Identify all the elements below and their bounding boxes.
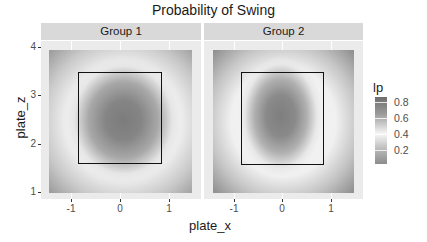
legend-label: 0.4 xyxy=(394,128,409,140)
panel-group-2 xyxy=(204,41,363,199)
x-axis-label: plate_x xyxy=(150,218,270,233)
y-tick-label: 4 xyxy=(22,41,36,52)
x-tick-label: 0 xyxy=(272,203,292,214)
y-tick-label: 1 xyxy=(22,186,36,197)
x-tick-label: 0 xyxy=(110,203,130,214)
x-tick-label: 1 xyxy=(159,203,179,214)
legend-tick xyxy=(375,118,387,119)
legend-tick xyxy=(375,150,387,151)
x-tick xyxy=(282,199,283,202)
legend-title: lp xyxy=(373,80,383,95)
y-tick xyxy=(38,144,41,145)
y-tick xyxy=(38,192,41,193)
x-tick-label: -1 xyxy=(224,203,244,214)
x-tick xyxy=(331,199,332,202)
strike-zone-box xyxy=(241,72,324,165)
facet-strip-group-2: Group 2 xyxy=(204,23,363,40)
y-tick xyxy=(38,47,41,48)
legend-tick xyxy=(375,134,387,135)
y-tick xyxy=(38,95,41,96)
panel-group-1 xyxy=(41,41,201,199)
legend-colorbar xyxy=(375,97,387,164)
y-axis-label: plate_z xyxy=(13,88,28,148)
x-tick xyxy=(120,199,121,202)
legend-label: 0.8 xyxy=(394,96,409,108)
x-tick-label: -1 xyxy=(61,203,81,214)
x-tick-label: 1 xyxy=(321,203,341,214)
legend-label: 0.2 xyxy=(394,144,409,156)
legend-tick xyxy=(375,102,387,103)
x-tick xyxy=(71,199,72,202)
legend-label: 0.6 xyxy=(394,112,409,124)
x-tick xyxy=(169,199,170,202)
chart-title: Probability of Swing xyxy=(0,2,427,18)
strike-zone-box xyxy=(78,72,162,164)
x-tick xyxy=(234,199,235,202)
facet-strip-group-1: Group 1 xyxy=(41,23,201,40)
